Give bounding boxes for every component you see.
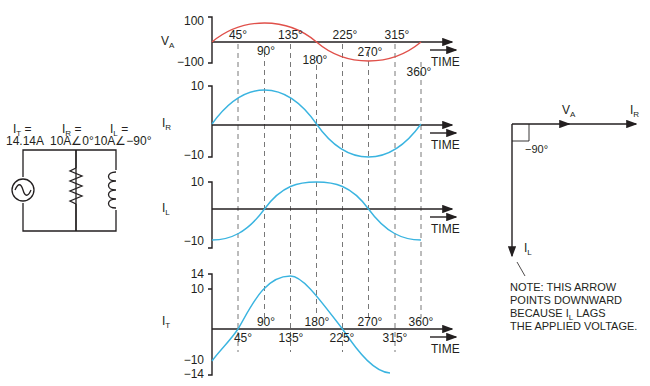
deg-label: 360° [409, 315, 434, 329]
va-axis-label: VA [161, 34, 175, 50]
deg-label: 270° [358, 315, 383, 329]
il-tick-max: 10 [191, 175, 205, 189]
it-value: 14.14A [6, 134, 44, 148]
phase-angle-label: −90° [525, 143, 548, 155]
circuit-wires [23, 150, 116, 231]
deg-label: 135° [279, 331, 304, 345]
deg-label: 90° [257, 315, 275, 329]
deg-label: 270° [358, 45, 383, 59]
il-value: 10A∠−90° [94, 134, 152, 148]
deg-label: 315° [385, 28, 410, 42]
deg-label: 315° [383, 331, 408, 345]
ir-tick-min: −10 [184, 148, 205, 162]
ac-parallel-rl-diagram: IT = 14.14A IR = 10A∠0° IL = 10A∠−90° [0, 0, 650, 386]
va-tick-min: −100 [177, 55, 204, 69]
ac-source-icon [12, 177, 34, 203]
deg-label: 225° [333, 28, 358, 42]
it-time-label: TIME [431, 342, 460, 356]
deg-label: 225° [330, 331, 355, 345]
ir-axis-label: IR [162, 116, 171, 132]
svg-text:NOTE: THIS ARROW: NOTE: THIS ARROW [510, 281, 617, 293]
chart-it: IT 14 10 −10 −14 TIME 90° 180° 270° 360°… [162, 267, 460, 381]
deg-label: 90° [257, 44, 275, 58]
phasor-va-label: VA [562, 103, 576, 119]
chart-il: IL 10 −10 TIME [162, 175, 460, 248]
chart-ir: IR 10 −10 TIME [162, 79, 460, 162]
it-tick-10: 10 [191, 282, 205, 296]
phasor-ir-label: IR [630, 103, 639, 119]
phasor-diagram: VA IR −90° IL NOTE: THIS ARROW POINTS DO… [510, 103, 639, 332]
deg-label: 360° [407, 65, 432, 79]
phasor-note: NOTE: THIS ARROW POINTS DOWNWARD BECAUSE… [510, 281, 637, 332]
il-axis-label: IL [162, 201, 170, 217]
it-tick-neg14: −14 [184, 367, 205, 381]
va-time-label: TIME [431, 55, 460, 69]
ir-time-label: TIME [431, 138, 460, 152]
svg-text:POINTS DOWNWARD: POINTS DOWNWARD [510, 294, 622, 306]
note-leader-line [517, 262, 525, 276]
va-tick-max: 100 [184, 14, 204, 28]
il-tick-min: −10 [184, 234, 205, 248]
chart-va: VA 100 −100 TIME 45° 135° 225° 315° 90° … [161, 14, 460, 79]
it-tick-neg10: −10 [184, 353, 205, 367]
deg-label: 180° [303, 53, 328, 67]
it-tick-14: 14 [191, 267, 205, 281]
it-axis-label: IT [162, 314, 170, 330]
svg-text:THE APPLIED VOLTAGE.: THE APPLIED VOLTAGE. [510, 320, 637, 332]
ir-value: 10A∠0° [50, 134, 94, 148]
ir-tick-max: 10 [191, 79, 205, 93]
right-angle-marker [512, 124, 529, 141]
deg-label: 180° [305, 315, 330, 329]
deg-label: 135° [278, 28, 303, 42]
circuit-schematic: IT = 14.14A IR = 10A∠0° IL = 10A∠−90° [6, 122, 152, 231]
phasor-il-label: IL [524, 241, 532, 257]
il-time-label: TIME [431, 222, 460, 236]
deg-label: 45° [229, 28, 247, 42]
inductor-icon [109, 170, 121, 210]
deg-label: 45° [234, 331, 252, 345]
